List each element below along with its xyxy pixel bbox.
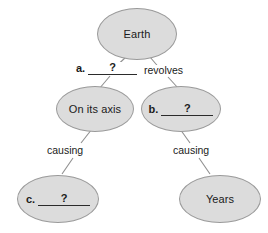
blank-c-question-mark: ? [38,193,90,204]
node-earth-label: Earth [124,29,151,40]
node-blank-c[interactable]: c. ? [17,175,99,223]
node-blank-b[interactable]: b. ? [141,86,221,132]
blank-b-question-mark: ? [161,103,213,114]
blank-answer-c[interactable]: c. ? [26,193,90,206]
blank-a-letter: a. [76,63,85,74]
blank-a-rule: ? [88,62,137,75]
blank-b-rule: ? [161,103,213,116]
blank-a-question-mark: ? [88,62,137,73]
edge-line-axis-to-c-lower [62,158,73,174]
edge-label-a-blank[interactable]: a. ? [74,62,139,75]
edge-label-causing-left: causing [46,145,84,156]
blank-c-letter: c. [26,194,35,205]
edge-label-revolves: revolves [143,65,184,76]
edge-label-causing-right: causing [172,145,210,156]
node-years: Years [179,175,261,223]
edge-line-b-to-years-lower [199,158,210,174]
concept-map-diagram: Earth On its axis b. ? c. ? Years a. ? r… [0,0,268,233]
blank-c-rule: ? [38,193,90,206]
node-earth: Earth [97,8,177,60]
blank-b-letter: b. [149,104,159,115]
node-on-its-axis: On its axis [56,86,134,132]
node-on-its-axis-label: On its axis [69,104,121,115]
node-years-label: Years [206,194,234,205]
blank-answer-b[interactable]: b. ? [149,103,214,116]
